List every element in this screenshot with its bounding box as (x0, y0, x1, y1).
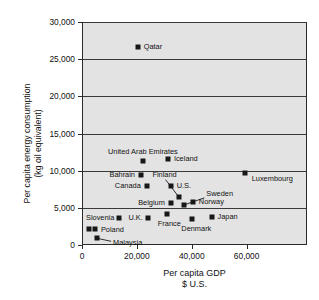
x-axis-tick-label: 0 (80, 251, 85, 261)
x-axis-tick-mark (82, 245, 83, 249)
data-point-label: Norway (199, 198, 224, 206)
data-point-label: Poland (101, 226, 124, 234)
data-point-label: Qatar (144, 43, 162, 51)
x-axis-tick-label: 20,000 (124, 251, 150, 261)
y-axis-tick-label: 20,000 (49, 91, 75, 101)
x-axis-title: Per capita GDP $ U.S. (82, 268, 307, 290)
gridline (83, 96, 306, 97)
x-axis-tick-label: 60,000 (234, 251, 260, 261)
data-point-marker[interactable] (138, 173, 143, 178)
data-point-label: Finland (152, 171, 176, 179)
data-point-marker[interactable] (190, 216, 195, 221)
gridline (83, 208, 306, 209)
plot-area (82, 22, 307, 245)
y-axis-tick-label: 10,000 (49, 166, 75, 176)
data-point-label: Luxembourg (252, 175, 293, 183)
data-point-marker[interactable] (144, 183, 149, 188)
data-point-label: Belgium (138, 199, 165, 207)
data-point-marker[interactable] (165, 211, 170, 216)
data-point-marker[interactable] (176, 194, 181, 199)
y-axis-tick-label: 15,000 (49, 129, 75, 139)
data-point-label: U.S. (177, 182, 191, 190)
x-axis-title-line1: Per capita GDP (82, 268, 307, 279)
data-point-marker[interactable] (135, 44, 140, 49)
data-point-marker[interactable] (242, 171, 247, 176)
y-axis-tick-label: 25,000 (49, 54, 75, 64)
y-axis-tick-label: 5,000 (54, 203, 75, 213)
x-axis-tick-mark (247, 245, 248, 249)
data-point-marker[interactable] (95, 236, 100, 241)
y-axis-tick-mark (78, 96, 82, 97)
data-point-marker[interactable] (92, 227, 97, 232)
gridline (83, 134, 306, 135)
data-point-label: Bahrain (110, 171, 135, 179)
data-point-marker[interactable] (182, 202, 187, 207)
data-point-marker[interactable] (87, 227, 92, 232)
data-point-label: Denmark (181, 225, 211, 233)
data-point-marker[interactable] (209, 214, 214, 219)
y-axis-tick-mark (78, 22, 82, 23)
x-axis-tick-label: 40,000 (179, 251, 205, 261)
y-axis-tick-mark (78, 171, 82, 172)
scatter-chart-figure: Per capita energy consumption (kg oil eq… (0, 0, 319, 300)
data-point-marker[interactable] (145, 215, 150, 220)
data-point-marker[interactable] (168, 184, 173, 189)
y-axis-tick-mark (78, 134, 82, 135)
x-axis-title-line2: $ U.S. (82, 279, 307, 290)
gridline (83, 59, 306, 60)
data-point-label: Japan (218, 213, 238, 221)
y-axis-title-line1: Per capita energy consumption (22, 54, 33, 234)
y-axis-tick-mark (78, 208, 82, 209)
data-point-label: Malaysia (113, 239, 142, 247)
data-point-label: U.K. (128, 214, 142, 222)
y-axis-title-line2: (kg oil equivalent) (32, 54, 43, 234)
data-point-marker[interactable] (117, 216, 122, 221)
data-point-marker[interactable] (140, 159, 145, 164)
data-point-label: United Arab Emirates (108, 148, 178, 156)
data-point-marker[interactable] (165, 156, 170, 161)
data-point-label: France (158, 220, 181, 228)
y-axis-tick-label: 30,000 (49, 17, 75, 27)
data-point-marker[interactable] (168, 201, 173, 206)
y-axis-title: Per capita energy consumption (kg oil eq… (22, 54, 43, 234)
y-axis-tick-label: 0 (70, 240, 75, 250)
x-axis-tick-mark (192, 245, 193, 249)
data-point-marker[interactable] (190, 199, 195, 204)
data-point-label: Canada (115, 182, 141, 190)
gridline (83, 22, 306, 23)
y-axis-tick-mark (78, 59, 82, 60)
data-point-label: Slovenia (86, 214, 114, 222)
